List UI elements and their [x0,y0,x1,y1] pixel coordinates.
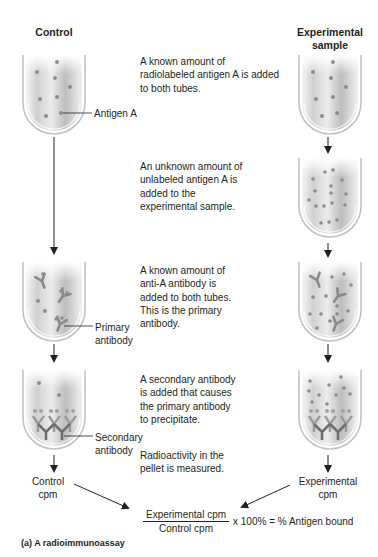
secondary-antibody-label: Secondary antibody [95,431,143,457]
experimental-tube-2 [299,158,361,237]
experimental-cpm-arrow [242,485,290,507]
control-tube-2 [23,262,93,341]
experimental-cpm-label: Experimental cpm [292,475,364,501]
experimental-tube-1 [299,55,361,134]
formula-numerator: Experimental cpm [143,509,229,522]
control-cpm-label: Control cpm [25,475,71,501]
experimental-tube-4 [299,370,361,449]
control-column-title: Control [20,26,88,39]
figure-caption: (a) A radioimmunoassay [21,538,125,548]
antigen-a-label: Antigen A [94,107,137,120]
experimental-column-title: Experimental sample [290,26,370,52]
control-cpm-arrow [74,484,128,508]
step-2-text: An unknown amount of unlabeled antigen A… [140,160,250,213]
step-1-text: A known amount of radiolabeled antigen A… [140,55,280,95]
experimental-tube-3 [299,262,361,341]
formula: Experimental cpm Control cpm x 100% = % … [143,509,353,534]
primary-antibody-label: Primary antibody [95,321,133,347]
formula-suffix: x 100% = % Antigen bound [233,516,353,527]
step-4-text: A secondary antibody is added that cause… [140,373,240,426]
formula-denominator: Control cpm [143,522,229,534]
control-tube-3 [23,370,93,449]
control-tube-1 [23,55,92,134]
step-5-text: Radioactivity in the pellet is measured. [140,449,240,476]
formula-fraction: Experimental cpm Control cpm [143,509,229,534]
step-3-text: A known amount of anti-A antibody is add… [140,264,244,330]
